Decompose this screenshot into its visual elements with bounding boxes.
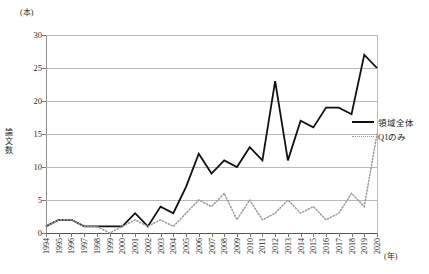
legend-solid-line-icon (352, 118, 374, 126)
series-line-Q1のみ (46, 134, 377, 233)
x-tick-label-2003: 2003 (157, 238, 166, 254)
x-tick-mark-2014 (301, 233, 302, 237)
series-line-領域全体 (46, 55, 377, 227)
legend-item-overall: 領域全体 (352, 116, 428, 128)
x-tick-mark-2007 (212, 233, 213, 237)
x-tick-label-2012: 2012 (271, 238, 280, 254)
y-tick-label-25: 25 (8, 63, 42, 73)
x-tick-label-2008: 2008 (220, 238, 229, 254)
y-tick-label-15: 15 (8, 129, 42, 139)
x-tick-mark-1996 (71, 233, 72, 237)
x-tick-mark-2016 (326, 233, 327, 237)
x-tick-label-2004: 2004 (169, 238, 178, 254)
x-tick-label-2019: 2019 (360, 238, 369, 254)
y-tick-label-20: 20 (8, 96, 42, 106)
x-axis-tick-labels: 1994199519961997199819992000200120022003… (46, 238, 377, 272)
x-tick-label-2001: 2001 (131, 238, 140, 254)
chart-legend: 領域全体 Q1のみ (352, 116, 428, 144)
x-tick-mark-2013 (288, 233, 289, 237)
legend-label-q1: Q1のみ (378, 130, 406, 142)
x-tick-label-1994: 1994 (42, 238, 51, 254)
y-tick-label-5: 5 (8, 195, 42, 205)
x-tick-label-2015: 2015 (309, 238, 318, 254)
x-tick-label-2005: 2005 (182, 238, 191, 254)
y-tick-label-30: 30 (8, 30, 42, 40)
x-tick-mark-2008 (224, 233, 225, 237)
x-tick-label-1995: 1995 (55, 238, 64, 254)
x-tick-mark-2020 (377, 233, 378, 237)
series-container (46, 35, 377, 233)
x-tick-mark-2003 (161, 233, 162, 237)
x-tick-mark-2017 (339, 233, 340, 237)
x-tick-mark-2002 (148, 233, 149, 237)
x-tick-label-2009: 2009 (233, 238, 242, 254)
x-tick-label-2016: 2016 (322, 238, 331, 254)
x-tick-mark-2000 (122, 233, 123, 237)
x-tick-label-2010: 2010 (246, 238, 255, 254)
x-tick-mark-2012 (275, 233, 276, 237)
x-tick-label-2000: 2000 (118, 238, 127, 254)
x-tick-label-2020: 2020 (373, 238, 382, 254)
x-tick-mark-1998 (97, 233, 98, 237)
x-tick-mark-1995 (59, 233, 60, 237)
x-tick-label-2017: 2017 (335, 238, 344, 254)
legend-dotted-line-icon (352, 132, 374, 140)
x-tick-label-2011: 2011 (258, 238, 267, 254)
x-tick-label-2013: 2013 (284, 238, 293, 254)
x-tick-label-1999: 1999 (106, 238, 115, 254)
x-tick-label-2018: 2018 (348, 238, 357, 254)
x-tick-mark-2001 (135, 233, 136, 237)
x-tick-mark-2010 (250, 233, 251, 237)
x-tick-label-2014: 2014 (297, 238, 306, 254)
y-axis-tick-labels: 051015202530 (6, 35, 42, 233)
x-tick-mark-1994 (46, 233, 47, 237)
x-axis-unit-caption: (年) (384, 250, 397, 261)
x-tick-label-1998: 1998 (93, 238, 102, 254)
plot-area (46, 35, 377, 233)
x-tick-mark-2006 (199, 233, 200, 237)
x-tick-label-1997: 1997 (80, 238, 89, 254)
x-tick-label-2007: 2007 (208, 238, 217, 254)
x-tick-mark-1997 (84, 233, 85, 237)
y-tick-label-0: 0 (8, 228, 42, 238)
legend-label-overall: 領域全体 (378, 116, 414, 128)
x-tick-label-1996: 1996 (67, 238, 76, 254)
x-tick-label-2002: 2002 (144, 238, 153, 254)
x-tick-mark-2009 (237, 233, 238, 237)
x-tick-label-2006: 2006 (195, 238, 204, 254)
x-tick-mark-2004 (173, 233, 174, 237)
x-tick-mark-2019 (364, 233, 365, 237)
x-tick-mark-2018 (352, 233, 353, 237)
legend-item-q1: Q1のみ (352, 130, 428, 142)
y-tick-label-10: 10 (8, 162, 42, 172)
x-tick-mark-2015 (313, 233, 314, 237)
line-chart: (本) 論 文 数 051015202530 19941995199619971… (0, 0, 429, 274)
x-tick-mark-2005 (186, 233, 187, 237)
y-axis-unit-caption: (本) (20, 6, 33, 17)
x-tick-mark-2011 (262, 233, 263, 237)
